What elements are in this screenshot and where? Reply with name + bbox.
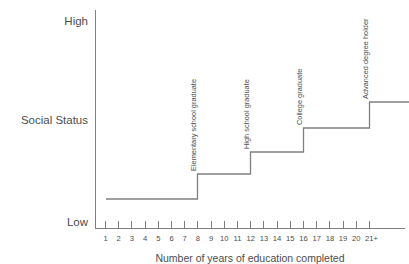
x-tick-label-7: 7 bbox=[183, 234, 187, 243]
step-annotation-advanced-degree-holder: Advanced degree holder bbox=[361, 18, 370, 99]
x-tick-label-18: 18 bbox=[326, 234, 334, 243]
x-axis-title: Number of years of education completed bbox=[155, 252, 344, 264]
x-tick-label-6: 6 bbox=[169, 234, 173, 243]
x-tick-label-4: 4 bbox=[143, 234, 147, 243]
x-tick-label-15: 15 bbox=[286, 234, 294, 243]
y-axis-high-label: High bbox=[64, 15, 88, 27]
step-annotation-elementary-school-graduate: Elementary school graduate bbox=[189, 79, 198, 171]
social-status-education-chart: 1 2 3 4 5 6 7 8 9 10 11 12 13 14 15 16 1… bbox=[0, 0, 409, 264]
x-tick-label-17: 17 bbox=[312, 234, 320, 243]
y-axis-title: Social Status bbox=[21, 114, 88, 126]
x-axis-ticks bbox=[106, 221, 370, 229]
step-annotation-high-school-graduate: High school graduate bbox=[242, 79, 251, 149]
x-tick-label-5: 5 bbox=[156, 234, 160, 243]
x-tick-label-14: 14 bbox=[273, 234, 281, 243]
step-function-line bbox=[106, 102, 409, 199]
chart-canvas: 1 2 3 4 5 6 7 8 9 10 11 12 13 14 15 16 1… bbox=[0, 0, 409, 264]
x-tick-label-11: 11 bbox=[234, 234, 242, 243]
y-axis-low-label: Low bbox=[67, 216, 89, 228]
x-tick-label-2: 2 bbox=[117, 234, 121, 243]
x-tick-label-1: 1 bbox=[103, 234, 107, 243]
x-tick-label-16: 16 bbox=[299, 234, 307, 243]
x-tick-label-12: 12 bbox=[246, 234, 254, 243]
x-tick-label-3: 3 bbox=[130, 234, 134, 243]
x-tick-label-8: 8 bbox=[196, 234, 200, 243]
x-tick-label-13: 13 bbox=[260, 234, 268, 243]
x-tick-label-21: 21+ bbox=[365, 234, 378, 243]
x-tick-label-20: 20 bbox=[352, 234, 360, 243]
step-annotation-college-graduate: College graduate bbox=[295, 69, 304, 125]
x-tick-label-9: 9 bbox=[209, 234, 213, 243]
x-tick-label-19: 19 bbox=[339, 234, 347, 243]
x-axis-tick-labels: 1 2 3 4 5 6 7 8 9 10 11 12 13 14 15 16 1… bbox=[103, 234, 378, 243]
x-tick-label-10: 10 bbox=[220, 234, 228, 243]
